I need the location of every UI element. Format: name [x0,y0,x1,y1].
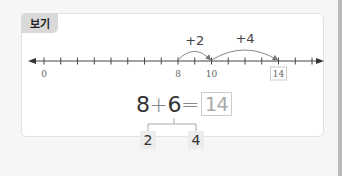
equation: 8 + 6 = 14 [136,92,232,116]
answer-box: 14 [201,92,232,116]
plus-sign: + [150,92,168,117]
equation-right: 6 [167,92,181,117]
decomposition-part-1: 2 [140,131,156,149]
jump-label: +4 [235,31,254,46]
tick-label: 0 [41,69,47,79]
tick-label: 8 [175,69,181,79]
decomposition-part-2: 4 [188,131,204,149]
equals-sign: = [181,92,199,117]
tick-label: 10 [206,69,218,79]
tick-label: 14 [273,69,285,79]
number-line: 081014 +2+4 [0,0,342,176]
left-arrow-icon [28,58,36,64]
right-arrow-icon [316,58,324,64]
jump-label: +2 [185,33,204,48]
equation-left: 8 [136,92,150,117]
